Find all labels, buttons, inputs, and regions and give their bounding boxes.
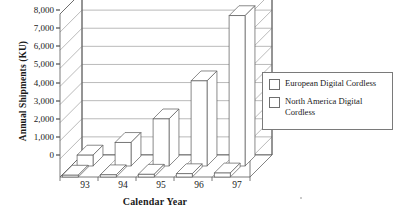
bar-3d [153,109,179,166]
chart-figure: Annual Shipments (KU) 01,0002,0003,0004,… [0,0,399,213]
y-axis-tick-label: 5,000 [34,59,54,69]
y-axis-tick-label: 3,000 [34,96,54,106]
y-axis-tick-label: 8,000 [34,5,54,15]
y-axis-tick-label: 1,000 [34,132,54,142]
legend-item[interactable]: European Digital Cordless [269,78,388,90]
plot-area [60,14,250,177]
legend-swatch-icon [269,97,280,108]
y-axis-tick-mark [56,10,60,11]
x-axis-title: Calendar Year [60,196,250,207]
legend-swatch-icon [269,79,280,90]
legend-item[interactable]: North America Digital Cordless [269,96,388,117]
y-axis-tick-label: 6,000 [34,41,54,51]
bars-3d [60,14,260,189]
y-axis-tick-label: 0 [50,150,55,160]
y-axis-tick-label: 7,000 [34,23,54,33]
y-axis-tick-label: 4,000 [34,78,54,88]
legend-item-label: European Digital Cordless [285,78,376,89]
y-axis-tick-labels: 01,0002,0003,0004,0005,0006,0007,0008,00… [18,0,60,213]
bar-3d [191,71,217,166]
legend-item-label: North America Digital Cordless [285,96,362,117]
scan-speck [300,197,302,199]
y-axis-tick-label: 2,000 [34,114,54,124]
bar-3d [229,6,255,166]
chart-legend: European Digital Cordless North America … [262,72,393,130]
